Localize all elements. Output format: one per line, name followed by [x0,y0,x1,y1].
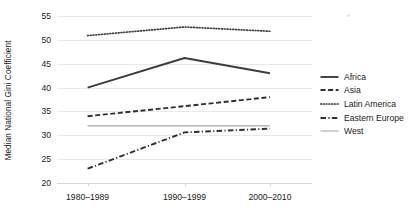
legend-item-latin-america[interactable]: Latin America [320,97,416,111]
x-tick-label-1: 1990–1999 [140,192,230,202]
legend-swatch-latin-america-icon [320,99,339,109]
legend-swatch-eastern-europe-icon [320,113,339,123]
legend-label-latin-america: Latin America [344,99,396,109]
legend-swatch-africa-icon [320,72,339,82]
legend-swatch-asia-icon [320,85,339,95]
legend-item-asia[interactable]: Asia [320,84,416,98]
y-tick-label-45: 45 [29,59,51,69]
y-tick-label-40: 40 [29,83,51,93]
y-axis-title-text: Median National Gini Coefficient [4,40,13,160]
legend-label-west: West [344,126,363,136]
x-tick-label-0: 1980–1989 [43,192,133,202]
series-line-latin-america [88,27,270,36]
x-tick-label-2: 2000–2010 [225,192,315,202]
plot-area [57,16,312,183]
y-tick-label-20: 20 [29,178,51,188]
scan-artifact-speck [347,14,350,17]
series-line-africa [88,58,270,88]
legend-label-africa: Africa [344,72,366,82]
y-axis-title: Median National Gini Coefficient [0,0,16,200]
legend: AfricaAsiaLatin AmericaEastern EuropeWes… [320,70,416,138]
legend-label-asia: Asia [344,85,361,95]
legend-item-west[interactable]: West [320,124,416,138]
y-tick-label-30: 30 [29,130,51,140]
y-tick-label-35: 35 [29,106,51,116]
y-tick-label-25: 25 [29,154,51,164]
y-tick-label-50: 50 [29,35,51,45]
y-tick-label-55: 55 [29,11,51,21]
x-tick-0 [88,183,89,186]
series-layer [57,16,312,183]
series-line-asia [88,97,270,116]
series-line-eastern-europe [88,129,270,169]
legend-label-eastern-europe: Eastern Europe [344,113,404,123]
legend-swatch-west-icon [320,126,339,136]
x-tick-2 [270,183,271,186]
x-tick-1 [185,183,186,186]
gini-line-chart: Median National Gini Coefficient 2025303… [0,0,416,222]
legend-item-africa[interactable]: Africa [320,70,416,84]
y-axis-tick-labels: 2025303540455055 [27,16,51,183]
legend-item-eastern-europe[interactable]: Eastern Europe [320,111,416,125]
